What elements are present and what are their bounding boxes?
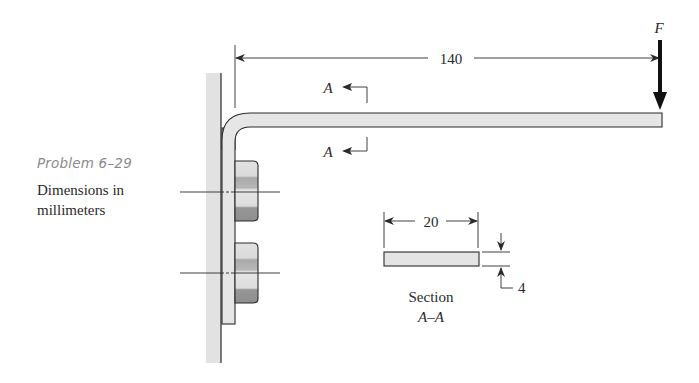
force-label: F	[653, 20, 664, 36]
nut-upper	[235, 161, 258, 221]
section-name: A–A	[417, 309, 445, 325]
bracket-arm	[222, 113, 662, 150]
diagram-canvas: Problem 6–29 Dimensions in millimeters	[0, 0, 699, 383]
thickness-dimension-label: 4	[518, 280, 526, 296]
force-arrow: F	[653, 20, 667, 110]
length-dimension-label: 140	[440, 51, 463, 67]
section-mark-top: A	[322, 80, 333, 96]
section-title: Section	[409, 289, 454, 305]
bracket-drawing: 140 F A A 20	[0, 0, 699, 383]
bracket-vertical-leg	[222, 128, 235, 324]
wall-support	[206, 73, 221, 363]
cross-section: 20 4	[384, 212, 526, 296]
width-dimension-label: 20	[424, 214, 439, 230]
section-mark-bottom: A	[322, 144, 333, 160]
length-dimension: 140	[235, 45, 659, 108]
